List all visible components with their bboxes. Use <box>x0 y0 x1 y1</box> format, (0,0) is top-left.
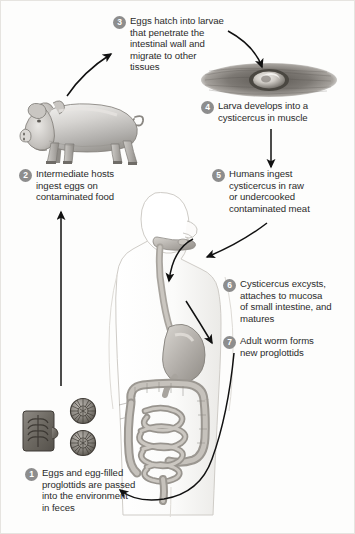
step-1-text: Eggs and egg-filled proglottids are pass… <box>42 467 135 513</box>
step-2-badge: 2 <box>19 169 32 182</box>
step-4: 4 Larva develops into a cysticercus in m… <box>201 100 341 123</box>
step-7-text: Adult worm forms new proglottids <box>240 335 314 358</box>
step-3-badge: 3 <box>113 16 126 29</box>
step-7: 7 Adult worm forms new proglottids <box>223 335 343 358</box>
life-cycle-diagram: 3 Eggs hatch into larvae that penetrate … <box>0 0 355 534</box>
step-5: 5 Humans ingest cysticercus in raw or un… <box>212 168 338 214</box>
eggs-and-proglottid-illustration <box>19 393 103 465</box>
step-2-text: Intermediate hosts ingest eggs on contam… <box>36 168 114 203</box>
step-6-text: Cysticercus excysts, attaches to mucosa … <box>240 278 332 324</box>
step-5-badge: 5 <box>212 169 225 182</box>
step-6: 6 Cysticercus excysts, attaches to mucos… <box>223 278 351 324</box>
step-2: 2 Intermediate hosts ingest eggs on cont… <box>19 168 149 203</box>
step-7-badge: 7 <box>223 336 236 349</box>
step-5-text: Humans ingest cysticercus in raw or unde… <box>229 168 310 214</box>
step-4-badge: 4 <box>201 101 214 114</box>
step-6-badge: 6 <box>223 279 236 292</box>
step-1-badge: 1 <box>25 468 38 481</box>
step-1: 1 Eggs and egg-filled proglottids are pa… <box>25 467 163 513</box>
step-4-text: Larva develops into a cysticercus in mus… <box>218 100 308 123</box>
step-3-text: Eggs hatch into larvae that penetrate th… <box>130 15 224 73</box>
pig-illustration <box>19 89 154 167</box>
step-3: 3 Eggs hatch into larvae that penetrate … <box>113 15 235 73</box>
